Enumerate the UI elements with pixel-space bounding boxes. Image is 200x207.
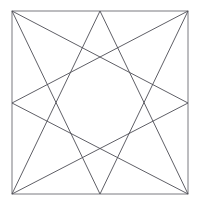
figure-background — [0, 0, 200, 207]
star-polygon-figure — [0, 0, 200, 207]
